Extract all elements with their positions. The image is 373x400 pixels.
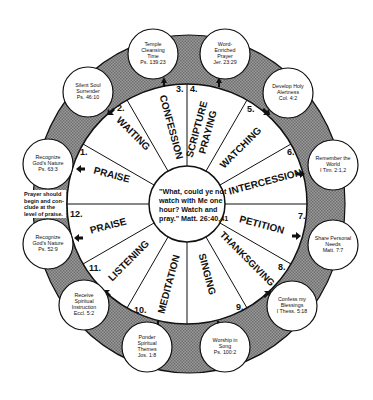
svg-text:2.: 2. <box>117 103 125 113</box>
svg-text:7.: 7. <box>298 211 306 221</box>
svg-text:3.: 3. <box>176 84 184 94</box>
outer-circle-11: Receive Spiritual Instruction Eccl. 5:2 <box>59 280 109 330</box>
svg-text:watch with Me one: watch with Me one <box>158 196 223 205</box>
svg-text:Jos. 1:8: Jos. 1:8 <box>138 352 157 358</box>
svg-text:Col. 4:2: Col. 4:2 <box>279 95 297 101</box>
svg-text:Ps. 63:3: Ps. 63:3 <box>38 166 57 172</box>
outer-circle-2: Silent Soul Surrender Ps. 46:10 <box>63 67 113 117</box>
svg-text:Jer. 23:29: Jer. 23:29 <box>213 59 236 65</box>
outer-circle-1: Recognize God's Nature Ps. 63:3 <box>23 139 73 189</box>
svg-text:clude at the: clude at the <box>24 204 55 210</box>
svg-text:Eccl. 5:2: Eccl. 5:2 <box>74 310 94 316</box>
outer-circle-3: Temple Cleansing Time Ps. 139:23 <box>128 29 178 79</box>
outer-circle-12: Recognize God's Nature Ps. 52:9 <box>23 219 73 269</box>
svg-text:Ps. 46:10: Ps. 46:10 <box>77 94 99 100</box>
svg-text:I Thess. 5:18: I Thess. 5:18 <box>277 308 308 314</box>
outer-circle-6: Remember the World I Tim. 2:1,2 <box>308 140 358 190</box>
svg-text:6.: 6. <box>287 147 295 157</box>
svg-text:4.: 4. <box>190 84 198 94</box>
svg-text:hour? Watch and: hour? Watch and <box>159 205 217 214</box>
svg-text:1.: 1. <box>80 147 88 157</box>
outer-circle-10: Ponder Spiritual Themes Jos. 1:8 <box>122 322 172 372</box>
svg-text:12.: 12. <box>70 209 83 219</box>
svg-text:pray." Matt. 26:40,41: pray." Matt. 26:40,41 <box>159 214 228 223</box>
svg-text:begin and con-: begin and con- <box>24 198 64 204</box>
svg-text:Ps. 100:2: Ps. 100:2 <box>214 349 236 355</box>
svg-text:Matt. 7:7: Matt. 7:7 <box>323 247 344 253</box>
svg-text:Ps. 52:9: Ps. 52:9 <box>38 246 57 252</box>
prayer-wheel-diagram: "What, could ye not watch with Me one ho… <box>0 0 373 400</box>
outer-circle-4: Word- Enriched Prayer Jer. 23:29 <box>200 29 250 79</box>
svg-text:11.: 11. <box>89 263 101 273</box>
svg-text:8.: 8. <box>278 262 286 272</box>
svg-text:Prayer should: Prayer should <box>24 191 62 197</box>
outer-circle-7: Share Personal Needs Matt. 7:7 <box>308 220 358 270</box>
outer-circle-8: Confess my Blessings I Thess. 5:18 <box>267 281 317 331</box>
svg-text:"What, could ye not: "What, could ye not <box>159 187 227 196</box>
svg-text:level of praise.: level of praise. <box>24 211 63 217</box>
svg-text:10.: 10. <box>134 305 147 315</box>
svg-text:I Tim. 2:1,2: I Tim. 2:1,2 <box>320 167 346 173</box>
svg-text:5.: 5. <box>247 104 255 114</box>
outer-circle-9: Worship in Song Ps. 100:2 <box>200 322 250 372</box>
outer-circle-5: Develop Holy Alertness Col. 4:2 <box>263 68 313 118</box>
svg-text:Ps. 139:23: Ps. 139:23 <box>140 59 165 65</box>
svg-text:9.: 9. <box>236 302 244 312</box>
